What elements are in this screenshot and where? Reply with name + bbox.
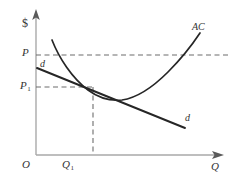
price-P-label: P (22, 47, 29, 58)
x-axis-label: Q (211, 161, 219, 172)
y-axis-unit-label: $ (22, 17, 28, 29)
price-P1-label-subscript: 1 (27, 85, 31, 93)
economics-figure: $ P P1 O Q1 Q AC d d (0, 0, 244, 178)
quantity-Q1-label-base: Q (62, 158, 70, 170)
guide-lines-group (36, 55, 228, 155)
average-cost-curve (52, 33, 200, 100)
demand-curve-label-left: d (40, 59, 45, 69)
origin-label: O (22, 159, 30, 170)
quantity-Q1-label-subscript: 1 (70, 164, 74, 172)
demand-curve-label-right: d (185, 113, 190, 123)
price-P1-label-base: P (20, 79, 27, 91)
figure-canvas (0, 0, 244, 178)
price-P1-label: P1 (20, 80, 30, 91)
quantity-Q1-label: Q1 (62, 159, 73, 170)
curves-group (37, 33, 200, 128)
average-cost-curve-label: AC (192, 22, 205, 32)
